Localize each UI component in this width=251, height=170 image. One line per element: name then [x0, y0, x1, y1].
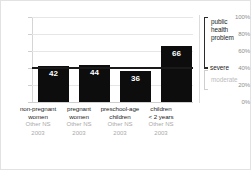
x-category-children-under-2-years: children < 2 years Other NS 2003 [135, 105, 187, 137]
bracket-tick-severe [204, 68, 208, 69]
bar-preschool-age-children: 36 [120, 71, 151, 102]
legend-label-severe: severe [210, 64, 229, 72]
bracket-public-health-problem [204, 17, 208, 68]
bar-value-label: 42 [38, 69, 69, 78]
x-category-source: Other NS [135, 120, 187, 128]
x-category-year: 2003 [135, 129, 187, 137]
bracket-moderate [204, 70, 208, 90]
bar-value-label: 66 [161, 49, 192, 58]
bar-value-label: 36 [120, 74, 151, 83]
legend-label-line2: health [211, 26, 234, 34]
anemia-prevalence-bar-chart: 100% 80% 60% 40% 20% 0% 42 44 36 66 [0, 0, 251, 170]
bar-value-label: 44 [79, 68, 110, 77]
legend-label-moderate: moderate [211, 76, 238, 84]
bar-children-under-2-years: 66 [161, 46, 192, 102]
x-category-line2: < 2 years [135, 113, 187, 121]
bar-non-pregnant-women: 42 [38, 66, 69, 102]
legend-divider [199, 15, 200, 103]
bar-pregnant-women: 44 [79, 65, 110, 102]
x-category-line1: children [135, 105, 187, 113]
legend-label-public-health-problem: public health problem [211, 18, 234, 41]
y-tick-mark-0 [28, 102, 32, 103]
x-axis-line [32, 102, 193, 103]
y-tick-label-60: 60% [224, 48, 250, 54]
severe-threshold-line [32, 67, 193, 69]
legend-label-line1: public [211, 18, 234, 26]
gridline-80 [32, 34, 193, 35]
gridline-100 [32, 17, 193, 18]
legend-label-line3: problem [211, 34, 234, 42]
y-tick-label-0: 0% [224, 99, 250, 105]
plot-area: 42 44 36 66 [32, 17, 193, 102]
